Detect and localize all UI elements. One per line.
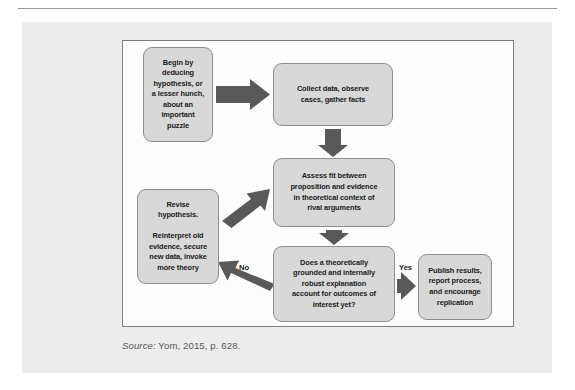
node-assess-fit: Assess fit between proposition and evide…	[273, 158, 395, 227]
source-caption-label: Source:	[122, 340, 156, 351]
node-begin-hypothesis: Begin by deducing hypothesis, or a lesse…	[143, 47, 213, 142]
branch-label-no: No	[239, 263, 249, 272]
figure-panel: Begin by deducing hypothesis, or a lesse…	[22, 22, 552, 373]
top-horizontal-rule	[18, 8, 557, 9]
arrow-hypothesis-to-collect	[216, 79, 270, 110]
arrow-assess-to-decision	[319, 230, 349, 245]
source-caption-text: Yom, 2015, p. 628.	[156, 340, 241, 351]
source-caption: Source: Yom, 2015, p. 628.	[122, 340, 240, 351]
arrow-revise-to-assess	[222, 189, 270, 228]
node-revise-hypothesis: Revise hypothesis. Reinterpret old evide…	[137, 189, 219, 284]
node-publish-results: Publish results, report process, and enc…	[418, 254, 492, 320]
node-collect-data: Collect data, observe cases, gather fact…	[273, 63, 393, 126]
node-decision-explanation-adequate: Does a theoretically grounded and intern…	[273, 246, 395, 322]
branch-label-yes: Yes	[399, 263, 412, 272]
flowchart-canvas: Begin by deducing hypothesis, or a lesse…	[122, 40, 514, 327]
arrow-decision-to-publish	[397, 272, 416, 300]
arrow-collect-to-assess	[318, 129, 348, 157]
